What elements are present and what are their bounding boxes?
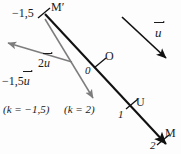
label-vector-u: u <box>155 26 162 39</box>
label-point-u: U <box>136 96 145 108</box>
vector-diagram: M′ −1,5 u O 0 2u −1,5u U 1 (k = −1,5) (k… <box>0 0 181 154</box>
label-k-two: (k = 2) <box>64 104 95 115</box>
label-m-prime: M′ <box>51 1 64 13</box>
main-number-line <box>45 14 166 144</box>
label-neg-one-five: −1,5 <box>12 7 34 19</box>
label-point-m: M <box>165 127 176 139</box>
label-two-u-vector: u <box>44 57 50 69</box>
label-neg-one-five-u-coefficient: −1,5 <box>2 74 24 88</box>
label-two-u: 2u <box>38 57 50 69</box>
label-origin-point: O <box>105 50 114 62</box>
label-origin-value: 0 <box>85 65 91 76</box>
label-one: 1 <box>118 109 124 120</box>
label-neg-one-five-u: −1,5u <box>2 75 30 87</box>
label-two: 2 <box>150 140 156 151</box>
vector-u-text: u <box>155 26 162 39</box>
label-k-neg-one-five: (k = −1,5) <box>3 104 49 115</box>
label-neg-one-five-u-vector: u <box>24 75 30 87</box>
